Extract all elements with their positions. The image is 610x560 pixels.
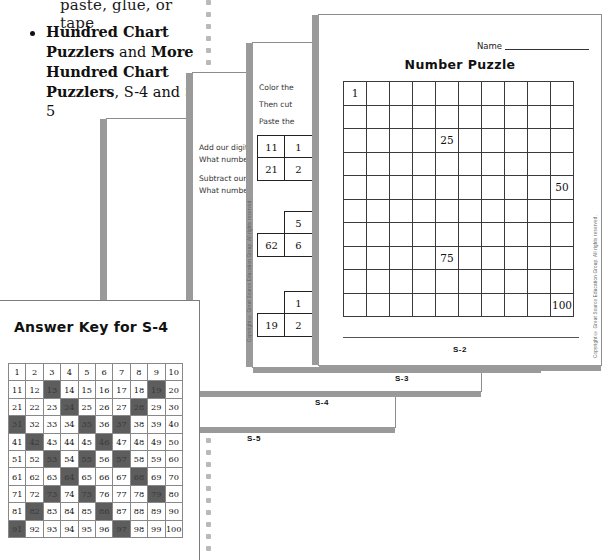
- puzzle-cell[interactable]: [528, 294, 551, 318]
- puzzle-cell[interactable]: [390, 270, 413, 294]
- puzzle-cell[interactable]: [459, 247, 482, 271]
- puzzle-cell[interactable]: [482, 176, 505, 200]
- puzzle-cell[interactable]: [505, 247, 528, 271]
- answer-key-cell[interactable]: 50: [166, 434, 183, 451]
- answer-key-cell[interactable]: 60: [166, 451, 183, 468]
- puzzle-cell[interactable]: [551, 82, 574, 106]
- puzzle-cell[interactable]: [367, 176, 390, 200]
- answer-key-cell[interactable]: 95: [79, 521, 96, 538]
- puzzle-cell[interactable]: [344, 247, 367, 271]
- answer-key-cell[interactable]: 93: [44, 521, 61, 538]
- puzzle-cell[interactable]: [551, 270, 574, 294]
- puzzle-cell[interactable]: [436, 82, 459, 106]
- answer-key-cell[interactable]: 13: [44, 381, 61, 398]
- puzzle-cell[interactable]: [482, 294, 505, 318]
- answer-key-cell[interactable]: 16: [96, 381, 113, 398]
- answer-key-cell[interactable]: 35: [79, 416, 96, 433]
- puzzle-cell[interactable]: [390, 294, 413, 318]
- answer-key-cell[interactable]: 29: [148, 399, 165, 416]
- answer-key-cell[interactable]: 96: [96, 521, 113, 538]
- puzzle-cell[interactable]: [344, 153, 367, 177]
- answer-key-cell[interactable]: 55: [79, 451, 96, 468]
- answer-key-cell[interactable]: 88: [131, 503, 148, 520]
- answer-key-cell[interactable]: 90: [166, 503, 183, 520]
- answer-key-cell[interactable]: 82: [26, 503, 43, 520]
- answer-key-cell[interactable]: 99: [148, 521, 165, 538]
- answer-key-cell[interactable]: 68: [131, 468, 148, 485]
- answer-key-cell[interactable]: 37: [113, 416, 130, 433]
- puzzle-cell[interactable]: [413, 247, 436, 271]
- puzzle-cell[interactable]: [459, 106, 482, 130]
- answer-key-cell[interactable]: 20: [166, 381, 183, 398]
- answer-key-cell[interactable]: 84: [61, 503, 78, 520]
- answer-key-cell[interactable]: 78: [131, 486, 148, 503]
- answer-key-cell[interactable]: 52: [26, 451, 43, 468]
- puzzle-cell[interactable]: [367, 82, 390, 106]
- answer-key-cell[interactable]: 64: [61, 468, 78, 485]
- answer-key-cell[interactable]: 65: [79, 468, 96, 485]
- puzzle-cell[interactable]: [459, 200, 482, 224]
- answer-key-cell[interactable]: 8: [131, 364, 148, 381]
- puzzle-cell[interactable]: [390, 223, 413, 247]
- puzzle-cell[interactable]: [413, 82, 436, 106]
- answer-key-cell[interactable]: 59: [148, 451, 165, 468]
- answer-key-cell[interactable]: 97: [113, 521, 130, 538]
- puzzle-cell[interactable]: [505, 106, 528, 130]
- puzzle-cell[interactable]: 1: [344, 82, 367, 106]
- puzzle-cell[interactable]: [367, 129, 390, 153]
- number-puzzle-grid[interactable]: 1255075100: [343, 81, 574, 317]
- answer-key-cell[interactable]: 62: [26, 468, 43, 485]
- puzzle-cell[interactable]: [551, 129, 574, 153]
- puzzle-cell[interactable]: [505, 176, 528, 200]
- answer-key-cell[interactable]: 89: [148, 503, 165, 520]
- answer-key-cell[interactable]: 71: [9, 486, 26, 503]
- answer-key-cell[interactable]: 43: [44, 434, 61, 451]
- answer-key-cell[interactable]: 19: [148, 381, 165, 398]
- puzzle-cell[interactable]: [390, 153, 413, 177]
- answer-key-cell[interactable]: 28: [131, 399, 148, 416]
- answer-key-cell[interactable]: 49: [148, 434, 165, 451]
- answer-key-cell[interactable]: 22: [26, 399, 43, 416]
- puzzle-cell[interactable]: [436, 153, 459, 177]
- answer-key-cell[interactable]: 6: [96, 364, 113, 381]
- answer-key-cell[interactable]: 48: [131, 434, 148, 451]
- puzzle-cell[interactable]: [551, 247, 574, 271]
- puzzle-cell[interactable]: [482, 270, 505, 294]
- puzzle-cell[interactable]: [551, 153, 574, 177]
- puzzle-cell[interactable]: [505, 129, 528, 153]
- answer-key-cell[interactable]: 24: [61, 399, 78, 416]
- worksheet-sheet-s2-number-puzzle[interactable]: Name Number Puzzle 1255075100 S-2 Copyri…: [318, 14, 602, 366]
- puzzle-cell[interactable]: [551, 223, 574, 247]
- puzzle-cell[interactable]: [528, 247, 551, 271]
- puzzle-cell[interactable]: [413, 200, 436, 224]
- puzzle-cell[interactable]: [367, 270, 390, 294]
- puzzle-cell[interactable]: [551, 200, 574, 224]
- puzzle-cell[interactable]: [367, 153, 390, 177]
- puzzle-cell[interactable]: [459, 223, 482, 247]
- puzzle-cell[interactable]: [528, 176, 551, 200]
- answer-key-cell[interactable]: 80: [166, 486, 183, 503]
- answer-key-cell[interactable]: 26: [96, 399, 113, 416]
- puzzle-cell[interactable]: [528, 82, 551, 106]
- answer-key-cell[interactable]: 46: [96, 434, 113, 451]
- answer-key-cell[interactable]: 30: [166, 399, 183, 416]
- answer-key-cell[interactable]: 21: [9, 399, 26, 416]
- answer-key-cell[interactable]: 66: [96, 468, 113, 485]
- puzzle-cell[interactable]: [482, 223, 505, 247]
- puzzle-cell[interactable]: [459, 129, 482, 153]
- answer-key-cell[interactable]: 100: [166, 521, 183, 538]
- answer-key-cell[interactable]: 61: [9, 468, 26, 485]
- puzzle-cell[interactable]: [528, 270, 551, 294]
- answer-key-cell[interactable]: 32: [26, 416, 43, 433]
- answer-key-cell[interactable]: 27: [113, 399, 130, 416]
- answer-key-cell[interactable]: 36: [96, 416, 113, 433]
- answer-key-cell[interactable]: 69: [148, 468, 165, 485]
- answer-key-cell[interactable]: 3: [44, 364, 61, 381]
- puzzle-cell[interactable]: [390, 247, 413, 271]
- puzzle-cell[interactable]: [367, 200, 390, 224]
- puzzle-cell[interactable]: [390, 82, 413, 106]
- answer-key-cell[interactable]: 5: [79, 364, 96, 381]
- answer-key-cell[interactable]: 98: [131, 521, 148, 538]
- answer-key-cell[interactable]: 73: [44, 486, 61, 503]
- puzzle-cell[interactable]: [436, 176, 459, 200]
